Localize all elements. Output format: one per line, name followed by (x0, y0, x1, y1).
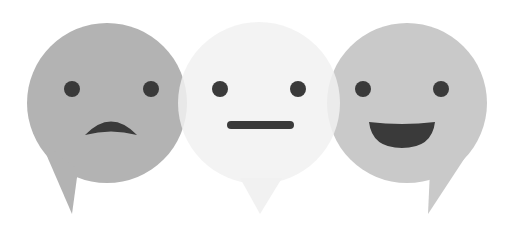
neutral-face-bubble[interactable] (178, 22, 340, 214)
happy-left-eye-icon (355, 81, 371, 97)
emoji-feedback-illustration (0, 0, 509, 230)
neutral-right-eye-icon (290, 81, 306, 97)
neutral-left-eye-icon (212, 81, 228, 97)
sad-left-eye-icon (64, 81, 80, 97)
sad-face-bubble[interactable] (27, 23, 187, 214)
happy-right-eye-icon (433, 81, 449, 97)
straight-mouth-icon (227, 121, 294, 129)
sad-right-eye-icon (143, 81, 159, 97)
happy-face-bubble[interactable] (327, 23, 487, 214)
